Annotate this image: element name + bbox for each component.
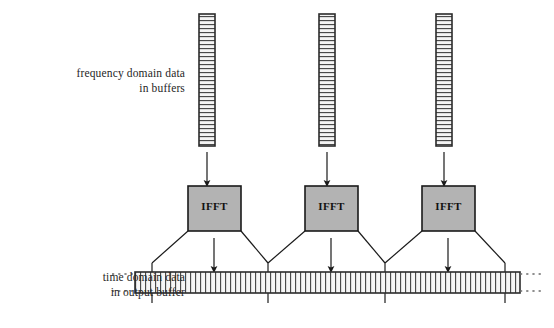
ifft-block-label-0: IFFT [188,200,241,212]
diagram-canvas: frequency domain data in buffers time do… [0,0,554,328]
input-buffer-0 [199,14,215,146]
time-domain-label-line1: time domain data [0,270,185,285]
frequency-domain-label: frequency domain data in buffers [0,66,185,96]
frequency-domain-label-line2: in buffers [0,81,185,96]
overlap-fan-lines [152,231,505,263]
time-domain-label: time domain data in output buffer [0,270,185,300]
time-domain-label-line2: in output buffer [0,285,185,300]
output-buffer [135,272,520,293]
input-buffer-1 [319,14,335,146]
input-buffer-2 [436,14,452,146]
ifft-block-label-1: IFFT [305,200,358,212]
frequency-domain-label-line1: frequency domain data [0,66,185,81]
ifft-block-label-2: IFFT [422,200,475,212]
